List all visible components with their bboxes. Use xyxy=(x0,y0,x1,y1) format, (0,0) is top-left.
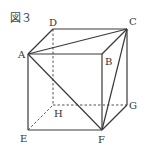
vertex-label-H: H xyxy=(54,108,63,119)
vertex-label-B: B xyxy=(105,56,112,67)
edge-EH xyxy=(28,105,53,130)
solid-edges xyxy=(28,29,127,130)
diagonal-AC xyxy=(28,29,127,54)
vertex-label-G: G xyxy=(129,100,137,111)
diagonal-CF xyxy=(102,29,127,130)
vertex-label-F: F xyxy=(98,134,105,145)
figure-title: 図３ xyxy=(10,12,32,25)
vertex-label-C: C xyxy=(129,16,137,27)
vertex-label-E: E xyxy=(20,133,27,144)
vertex-label-A: A xyxy=(17,49,26,60)
cube-diagram: 図３ D C A B H G E F xyxy=(0,0,146,153)
edge-FG xyxy=(102,105,127,130)
vertex-label-D: D xyxy=(49,17,57,28)
